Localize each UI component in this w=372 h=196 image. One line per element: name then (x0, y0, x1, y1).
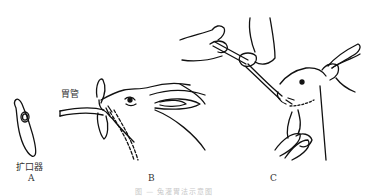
panel-label-a: A (28, 173, 35, 183)
figure-caption: 图 — 兔灌胃法示意图 (135, 186, 213, 196)
figure-illustration (0, 0, 372, 196)
mouth-opener-label: 扩口器 (16, 160, 43, 173)
rabbit-held-drawing (180, 18, 360, 160)
mouth-opener-drawing (15, 99, 36, 156)
panel-label-b: B (148, 173, 155, 183)
panel-label-c: C (270, 173, 277, 183)
stomach-tube-label: 胃管 (61, 87, 79, 100)
